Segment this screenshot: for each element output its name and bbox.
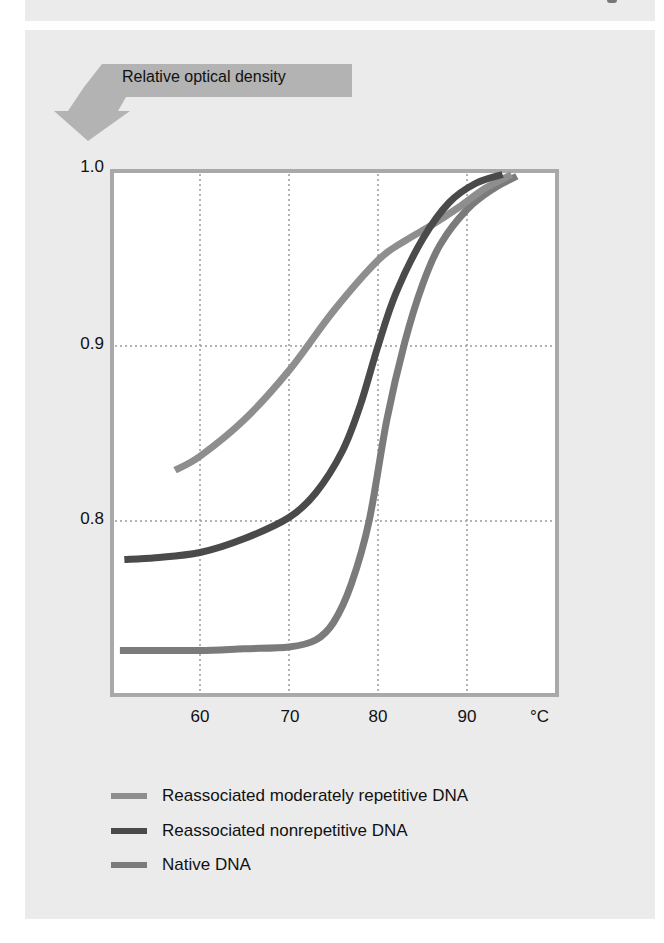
- y-tick-label: 0.9: [54, 335, 104, 352]
- legend-label: Reassociated moderately repetitive DNA: [162, 786, 468, 806]
- legend-swatch: [111, 828, 147, 834]
- y-axis-title: Relative optical density: [122, 68, 286, 86]
- legend-item-nonrepetitive: Reassociated nonrepetitive DNA: [111, 814, 468, 849]
- y-tick-label: 1.0: [54, 158, 104, 175]
- legend-item-native: Native DNA: [111, 848, 468, 883]
- x-axis-unit: °C: [530, 708, 549, 725]
- legend-label: Reassociated nonrepetitive DNA: [162, 821, 408, 841]
- x-tick-label: 90: [447, 708, 487, 725]
- legend-label: Native DNA: [162, 855, 251, 875]
- legend: Reassociated moderately repetitive DNA R…: [111, 779, 468, 883]
- y-tick-label: 0.8: [54, 510, 104, 527]
- legend-item-moderately-repetitive: Reassociated moderately repetitive DNA: [111, 779, 468, 814]
- legend-swatch: [111, 862, 147, 868]
- x-tick-label: 60: [180, 708, 220, 725]
- x-tick-label: 80: [358, 708, 398, 725]
- x-tick-label: 70: [270, 708, 310, 725]
- legend-swatch: [111, 793, 147, 799]
